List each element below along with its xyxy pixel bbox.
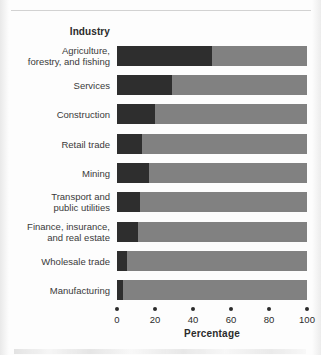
x-axis-title: Percentage bbox=[117, 328, 307, 339]
bar-value-segment bbox=[117, 251, 127, 271]
category-label: Retail trade bbox=[0, 138, 110, 149]
industry-column-header: Industry bbox=[0, 26, 110, 37]
x-axis-tick-label: 80 bbox=[249, 314, 289, 325]
bar-remainder-segment bbox=[117, 222, 307, 242]
bar-remainder-segment bbox=[117, 75, 307, 95]
bar-value-segment bbox=[117, 134, 142, 154]
x-axis-tick-label: 60 bbox=[211, 314, 251, 325]
x-axis: Percentage 020406080100 bbox=[117, 305, 307, 355]
category-label: Construction bbox=[0, 109, 110, 120]
bar-value-segment bbox=[117, 75, 172, 95]
x-axis-tick-marker bbox=[153, 307, 157, 311]
bar-remainder-segment bbox=[117, 280, 307, 300]
bar-row: Mining bbox=[117, 163, 307, 183]
x-axis-tick-marker bbox=[115, 307, 119, 311]
category-label: Agriculture,forestry, and fishing bbox=[0, 45, 110, 67]
bar-value-segment bbox=[117, 163, 149, 183]
bar-value-segment bbox=[117, 280, 123, 300]
plot-area: Agriculture,forestry, and fishingService… bbox=[117, 41, 307, 305]
category-label: Services bbox=[0, 80, 110, 91]
bar-value-segment bbox=[117, 46, 212, 66]
category-label: Wholesale trade bbox=[0, 256, 110, 267]
bar-row: Services bbox=[117, 75, 307, 95]
bar-row: Agriculture,forestry, and fishing bbox=[117, 46, 307, 66]
bar-row: Construction bbox=[117, 104, 307, 124]
category-label: Finance, insurance,and real estate bbox=[0, 221, 110, 243]
category-label: Mining bbox=[0, 168, 110, 179]
x-axis-tick-marker bbox=[267, 307, 271, 311]
bar-row: Retail trade bbox=[117, 134, 307, 154]
x-axis-tick-label: 100 bbox=[287, 314, 321, 325]
bar-row: Manufacturing bbox=[117, 280, 307, 300]
bar-value-segment bbox=[117, 192, 140, 212]
x-axis-tick-marker bbox=[191, 307, 195, 311]
category-label: Transport andpublic utilities bbox=[0, 191, 110, 213]
x-axis-tick-label: 20 bbox=[135, 314, 175, 325]
x-axis-tick-marker bbox=[229, 307, 233, 311]
bar-remainder-segment bbox=[117, 163, 307, 183]
bar-row: Wholesale trade bbox=[117, 251, 307, 271]
bar-remainder-segment bbox=[117, 192, 307, 212]
x-axis-tick-label: 0 bbox=[97, 314, 137, 325]
x-axis-tick-marker bbox=[305, 307, 309, 311]
bar-remainder-segment bbox=[117, 134, 307, 154]
bar-value-segment bbox=[117, 104, 155, 124]
bar-remainder-segment bbox=[117, 104, 307, 124]
category-label: Manufacturing bbox=[0, 285, 110, 296]
bar-remainder-segment bbox=[117, 46, 307, 66]
stacked-bar-chart: Industry Agriculture,forestry, and fishi… bbox=[0, 0, 321, 355]
bar-value-segment bbox=[117, 222, 138, 242]
bar-row: Transport andpublic utilities bbox=[117, 192, 307, 212]
bar-row: Finance, insurance,and real estate bbox=[117, 222, 307, 242]
bar-remainder-segment bbox=[117, 251, 307, 271]
x-axis-tick-label: 40 bbox=[173, 314, 213, 325]
